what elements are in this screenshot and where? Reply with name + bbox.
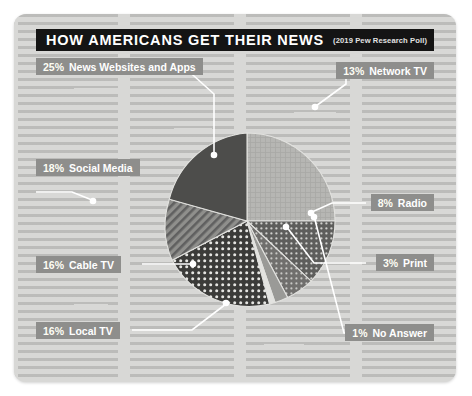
label-radio: 8% Radio <box>371 194 434 211</box>
name-network-tv: Network TV <box>369 65 427 77</box>
pie-slice-news-websites-and-apps <box>247 133 335 221</box>
pie-chart <box>155 127 341 315</box>
percent-print: 3% <box>383 257 398 269</box>
newsprint-rag <box>294 112 336 116</box>
label-local-tv: 16% Local TV <box>36 322 120 339</box>
name-radio: Radio <box>398 197 427 209</box>
label-social-media: 18% Social Media <box>36 159 140 176</box>
infographic-stage: HOW AMERICANS GET THEIR NEWS (2019 Pew R… <box>0 0 472 396</box>
newsprint-rag <box>74 88 120 92</box>
label-cable-tv: 16% Cable TV <box>36 256 121 273</box>
percent-network-tv: 13% <box>343 65 364 77</box>
pie-svg <box>155 127 341 315</box>
name-print: Print <box>403 257 427 269</box>
label-network-tv: 13% Network TV <box>336 62 434 79</box>
newsprint-rag <box>264 344 304 348</box>
newsprint-page: HOW AMERICANS GET THEIR NEWS (2019 Pew R… <box>14 14 456 382</box>
percent-radio: 8% <box>378 197 393 209</box>
name-no-answer: No Answer <box>373 327 427 339</box>
name-social-media: Social Media <box>69 162 133 174</box>
name-local-tv: Local TV <box>69 325 113 337</box>
percent-news-websites-and-apps: 25% <box>43 61 64 73</box>
label-print: 3% Print <box>376 254 434 271</box>
label-no-answer: 1% No Answer <box>345 324 434 341</box>
source-citation: (2019 Pew Research Poll) <box>333 36 427 45</box>
name-cable-tv: Cable TV <box>69 259 114 271</box>
headline-bar: HOW AMERICANS GET THEIR NEWS (2019 Pew R… <box>36 29 434 51</box>
percent-social-media: 18% <box>43 162 64 174</box>
label-news-websites-and-apps: 25% News Websites and Apps <box>36 58 203 75</box>
percent-no-answer: 1% <box>352 327 367 339</box>
name-news-websites-and-apps: News Websites and Apps <box>69 61 196 73</box>
newsprint-rag <box>74 304 108 308</box>
percent-local-tv: 16% <box>43 325 64 337</box>
page-title: HOW AMERICANS GET THEIR NEWS <box>46 32 324 48</box>
percent-cable-tv: 16% <box>43 259 64 271</box>
